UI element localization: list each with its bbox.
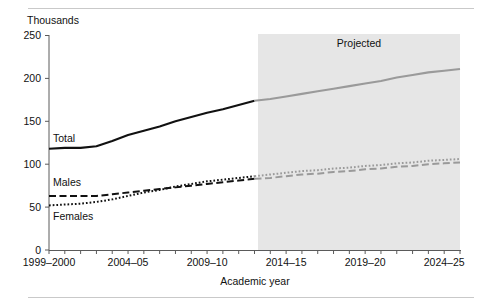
- y-tick-label: 250: [23, 29, 41, 41]
- x-tick-label: 2009–10: [187, 256, 228, 268]
- y-axis-ticks: [45, 36, 49, 251]
- projection-band-label: Projected: [337, 37, 382, 49]
- series-inline-labels: TotalMalesFemales: [53, 132, 93, 222]
- plot-area: Projected 050100150200250 1999–20002004–…: [0, 0, 483, 308]
- y-tick-label: 50: [29, 201, 41, 213]
- y-tick-label: 150: [23, 115, 41, 127]
- x-tick-label: 2024–25: [424, 256, 465, 268]
- x-tick-label: 2004–05: [108, 256, 149, 268]
- y-tick-label: 100: [23, 158, 41, 170]
- chart-figure: Thousands Projected 050100150200250 1999…: [0, 0, 483, 308]
- y-tick-label: 200: [23, 72, 41, 84]
- series-label-males: Males: [53, 176, 81, 188]
- series-label-total: Total: [53, 132, 75, 144]
- x-tick-label: 2014–15: [266, 256, 307, 268]
- x-axis-title: Academic year: [220, 275, 290, 287]
- series-total-line-historical: [49, 101, 255, 149]
- x-axis-tick-labels: 1999–20002004–052009–102014–152019–20202…: [23, 256, 465, 268]
- y-axis-tick-labels: 050100150200250: [23, 29, 41, 256]
- y-tick-label: 0: [35, 244, 41, 256]
- x-tick-label: 2019–20: [345, 256, 386, 268]
- projection-shaded-band: [258, 34, 460, 250]
- x-tick-label: 1999–2000: [23, 256, 76, 268]
- chart-svg: Projected 050100150200250 1999–20002004–…: [0, 0, 483, 308]
- series-label-females: Females: [53, 210, 93, 222]
